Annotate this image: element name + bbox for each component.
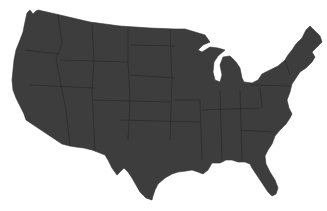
us-map — [0, 0, 327, 211]
us-landmass — [12, 10, 322, 200]
us-map-svg — [0, 0, 327, 211]
